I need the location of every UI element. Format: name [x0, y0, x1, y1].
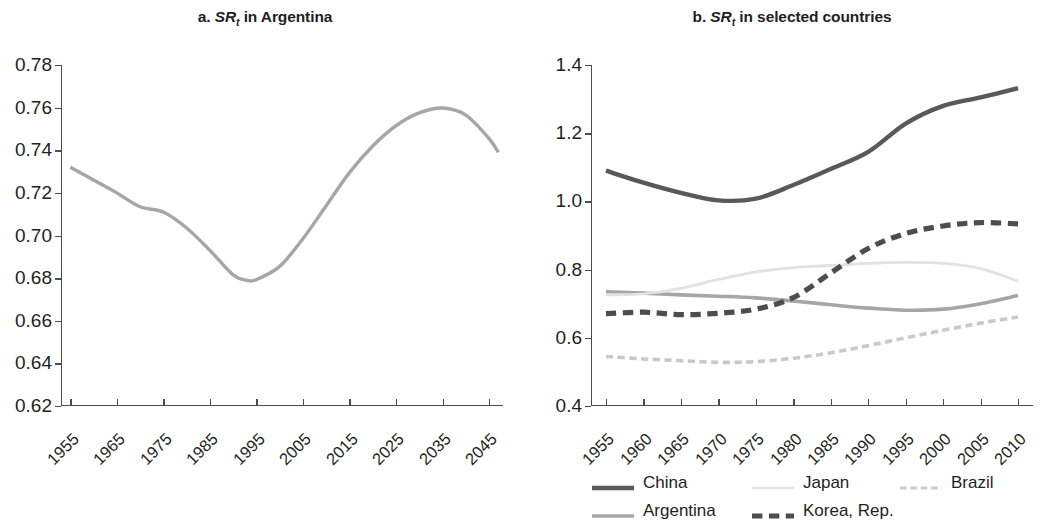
panel-b-x-tick-label: 1970	[691, 429, 730, 468]
panel-b-x-tick-label: 1955	[579, 429, 618, 468]
panel-b-y-tick-label: 0.8	[556, 259, 582, 281]
panel-a-x-tick-label: 1985	[182, 429, 221, 468]
legend-row: ArgentinaKorea, Rep.	[592, 496, 1042, 524]
legend-item-china[interactable]: China	[592, 474, 752, 491]
panel-b-title-symbol: SR	[710, 8, 731, 25]
series-line-japan	[606, 262, 1018, 294]
panel-b-y-tick	[585, 406, 591, 407]
legend-label: Japan	[803, 474, 849, 491]
legend-label: Argentina	[643, 502, 716, 519]
panel-b-title: b. SRt in selected countries	[527, 8, 1057, 28]
panel-b-title-prefix: b.	[693, 8, 707, 25]
panel-a-x-tick-label: 2005	[276, 429, 315, 468]
panel-b-y-tick-label: 0.6	[556, 327, 582, 349]
legend-item-argentina[interactable]: Argentina	[592, 502, 752, 519]
panel-a-y-tick-label: 0.64	[15, 352, 52, 374]
panel-a-y-tick-label: 0.74	[15, 139, 52, 161]
panel-a-x-tick-label: 2025	[369, 429, 408, 468]
legend-label: China	[643, 474, 687, 491]
panel-a-y-tick-label: 0.78	[15, 54, 52, 76]
panel-a-title: a. SRt in Argentina	[0, 8, 530, 28]
legend-item-korea-rep[interactable]: Korea, Rep.	[752, 502, 900, 519]
panel-b-x-tick-label: 1995	[878, 429, 917, 468]
panel-a-title-prefix: a.	[198, 8, 211, 25]
legend-label: Brazil	[951, 474, 994, 491]
panel-a-title-symbol: SR	[215, 8, 236, 25]
legend-row: ChinaJapanBrazil	[592, 468, 1042, 496]
panel-a-y-tick	[55, 406, 61, 407]
panel-b-y-tick-label: 1.2	[556, 122, 582, 144]
panel-b-x-tick-label: 1990	[841, 429, 880, 468]
panel-b-plot-area: 1.41.21.00.80.60.4 195519601965197019751…	[591, 65, 1033, 406]
panel-a-y-tick-label: 0.76	[15, 97, 52, 119]
chart-legend: ChinaJapanBrazilArgentinaKorea, Rep.	[592, 468, 1042, 524]
series-line-china	[606, 88, 1018, 201]
panel-b-series-layer	[591, 65, 1033, 406]
panel-a-x-tick-label: 2035	[415, 429, 454, 468]
panel-a-x-tick-label: 1955	[43, 429, 82, 468]
panel-b-x-tick-label: 1965	[654, 429, 693, 468]
legend-item-brazil[interactable]: Brazil	[900, 474, 1040, 491]
panel-a-series-layer	[61, 65, 503, 406]
series-line-korea-rep	[606, 222, 1018, 314]
panel-a-x-tick-label: 2045	[462, 429, 501, 468]
panel-a-x-tick-label: 2015	[322, 429, 361, 468]
panel-a-plot-area: 0.780.760.740.720.700.680.660.640.62 195…	[61, 65, 503, 406]
panel-a-title-subscript: t	[236, 16, 239, 28]
panel-a-y-tick-label: 0.62	[15, 395, 52, 417]
panel-b-y-tick-label: 0.4	[556, 395, 582, 417]
panel-b-x-tick-label: 2000	[916, 429, 955, 468]
legend-label: Korea, Rep.	[803, 502, 894, 519]
series-line-argentina	[606, 292, 1018, 310]
legend-item-japan[interactable]: Japan	[752, 474, 900, 491]
panel-a-y-tick-label: 0.66	[15, 310, 52, 332]
series-line-brazil	[606, 317, 1018, 362]
panel-b-x-tick-label: 2010	[991, 429, 1030, 468]
panel-b: b. SRt in selected countries 1.41.21.00.…	[527, 0, 1057, 525]
panel-b-x-tick-label: 1975	[728, 429, 767, 468]
panel-b-title-subscript: t	[732, 16, 735, 28]
panel-b-y-tick-label: 1.0	[556, 190, 582, 212]
panel-b-y-tick-label: 1.4	[556, 54, 582, 76]
panel-a-y-tick-label: 0.68	[15, 267, 52, 289]
panel-a-title-suffix: in Argentina	[244, 8, 333, 25]
panel-b-x-tick-label: 1960	[616, 429, 655, 468]
panel-b-x-tick-label: 1985	[803, 429, 842, 468]
panel-a-y-tick-label: 0.70	[15, 225, 52, 247]
panel-a-y-tick-label: 0.72	[15, 182, 52, 204]
panel-a: a. SRt in Argentina 0.780.760.740.720.70…	[0, 0, 530, 525]
panel-b-title-suffix: in selected countries	[739, 8, 891, 25]
panel-a-x-tick-label: 1975	[136, 429, 175, 468]
figure-container: a. SRt in Argentina 0.780.760.740.720.70…	[0, 0, 1057, 525]
series-line-argentina	[70, 108, 498, 281]
panel-b-x-tick-label: 1980	[766, 429, 805, 468]
panel-a-x-tick-label: 1965	[89, 429, 128, 468]
panel-b-x-tick-label: 2005	[953, 429, 992, 468]
panel-a-x-tick-label: 1995	[229, 429, 268, 468]
